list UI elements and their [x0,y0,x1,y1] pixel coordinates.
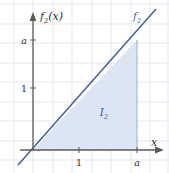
x-tick-label-a: a [134,157,140,168]
function-plot-f2: f2(x) x f2 I2 a 1 1 a [0,0,169,173]
x-axis-label: x [151,136,158,149]
x-tick-label-1: 1 [76,157,82,168]
figure-container: f2(x) x f2 I2 a 1 1 a [0,0,169,173]
y-axis-label-argument: (x) [48,10,63,23]
y-axis-label: f2(x) [39,10,63,25]
region-label-subscript: 2 [103,113,108,121]
y-tick-label-1: 1 [21,83,27,94]
curve-label-subscript: 2 [136,17,141,25]
y-tick-label-a: a [21,35,27,46]
